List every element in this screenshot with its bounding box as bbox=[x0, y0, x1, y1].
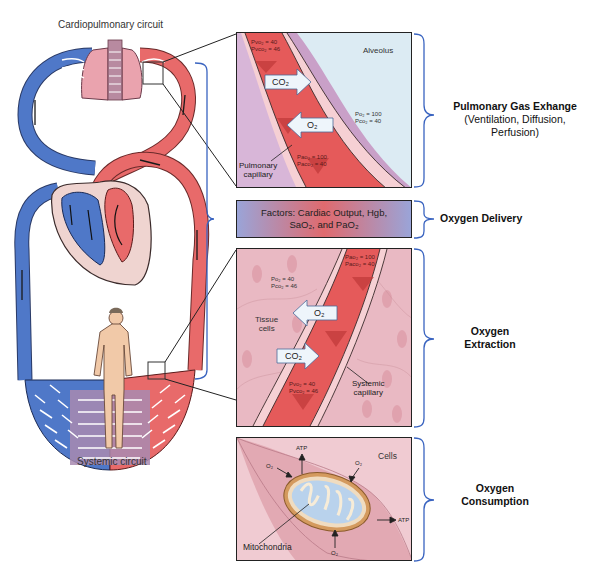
alveolus-values: Po₂ = 100 Pco₂ = 40 bbox=[355, 111, 382, 125]
pulmonary-gas-exchange-panel: Pvo₂ = 40 Pvco₂ = 46 Alveolus Po₂ = 100 … bbox=[236, 32, 412, 188]
stage-title: Pulmonary Gas Exhange bbox=[440, 100, 590, 113]
o2-arrow-label: O₂ bbox=[314, 308, 325, 318]
pulmonary-capillary-label-line1: Pulmonary bbox=[239, 161, 277, 170]
tissue-cells-label-line2: cells bbox=[255, 324, 278, 333]
systemic-capillary-label-line2: capillary bbox=[352, 388, 384, 397]
bracket-pulmonary bbox=[414, 34, 434, 187]
stage-title: Oxygen Delivery bbox=[440, 212, 550, 225]
paco2-value: Paco₂ = 40 bbox=[297, 161, 327, 168]
o2-arrow-label: O₂ bbox=[307, 120, 318, 130]
factors-box: Factors: Cardiac Output, Hgb, SaO₂, and … bbox=[236, 200, 412, 238]
pao2-value: Pao₂ = 100 bbox=[345, 254, 375, 261]
stage-oxygen-consumption: Oxygen Consumption bbox=[440, 482, 550, 508]
oxygen-consumption-panel: Cells ATP O₂ O₂ ATP O₂ Mitochondria bbox=[236, 437, 412, 561]
systemic-venous-values: Pvo₂ = 40 Pvco₂ = 46 bbox=[289, 381, 318, 395]
paco2-value: Paco₂ = 40 bbox=[345, 261, 375, 268]
bracket-extraction bbox=[414, 249, 434, 427]
tissue-po2: Po₂ = 40 bbox=[271, 276, 297, 283]
tissue-values: Po₂ = 40 Pco₂ = 46 bbox=[271, 276, 297, 290]
o2-left-label: O₂ bbox=[266, 463, 273, 470]
systemic-capillary-label: Systemic capillary bbox=[352, 379, 384, 397]
pvo2-value: Pvo₂ = 40 bbox=[289, 381, 318, 388]
pulmonary-venous-values: Pvo₂ = 40 Pvco₂ = 46 bbox=[251, 39, 280, 53]
stage-title-line2: Extraction bbox=[440, 338, 540, 351]
stage-oxygen-extraction: Oxygen Extraction bbox=[440, 325, 540, 351]
oxygen-extraction-panel: Pao₂ = 100 Paco₂ = 40 Po₂ = 40 Pco₂ = 46… bbox=[236, 248, 412, 427]
systemic-capillary-illustration bbox=[237, 249, 412, 427]
systemic-circuit-label: Systemic circuit bbox=[77, 456, 146, 467]
stage-subtitle-line1: (Ventilation, Diffusion, bbox=[440, 113, 590, 126]
stage-title-line1: Oxygen bbox=[440, 482, 550, 495]
stage-title-line1: Oxygen bbox=[440, 325, 540, 338]
factors-line1: Factors: Cardiac Output, Hgb, bbox=[237, 207, 411, 219]
bracket-consumption bbox=[414, 438, 434, 561]
atp-right-label: ATP bbox=[398, 517, 409, 524]
circulation-diagram bbox=[0, 0, 240, 575]
pulmonary-capillary-label: Pulmonary capillary bbox=[239, 161, 277, 179]
systemic-capillary-label-line1: Systemic bbox=[352, 379, 384, 388]
o2-bottom-label: O₂ bbox=[331, 550, 338, 557]
stage-oxygen-delivery: Oxygen Delivery bbox=[440, 212, 550, 225]
pao2-value: Pao₂ = 100 bbox=[297, 154, 327, 161]
cells-label: Cells bbox=[378, 451, 397, 461]
heart bbox=[52, 181, 152, 285]
co2-arrow-label: CO₂ bbox=[285, 351, 302, 361]
systemic-arterial-values: Pao₂ = 100 Paco₂ = 40 bbox=[345, 254, 375, 268]
stage-pulmonary-gas-exchange: Pulmonary Gas Exhange (Ventilation, Diff… bbox=[440, 100, 590, 139]
co2-arrow-label: CO₂ bbox=[272, 77, 289, 87]
tissue-cells-label-line1: Tissue bbox=[255, 315, 278, 324]
pvo2-value: Pvo₂ = 40 bbox=[251, 39, 280, 46]
pvco2-value: Pvco₂ = 46 bbox=[251, 46, 280, 53]
mitochondria-label: Mitochondria bbox=[243, 542, 292, 552]
atp-top-label: ATP bbox=[296, 445, 307, 452]
pulmonary-capillary-label-line2: capillary bbox=[239, 170, 277, 179]
factors-line2: SaO₂, and PaO₂ bbox=[237, 219, 411, 231]
stage-subtitle-line2: Perfusion) bbox=[440, 126, 590, 139]
alveolus-po2: Po₂ = 100 bbox=[355, 111, 382, 118]
alveolus-pco2: Pco₂ = 40 bbox=[355, 118, 382, 125]
stage-title-line2: Consumption bbox=[440, 495, 550, 508]
tissue-pco2: Pco₂ = 46 bbox=[271, 283, 297, 290]
tissue-cells-label: Tissue cells bbox=[255, 315, 278, 333]
pvco2-value: Pvco₂ = 46 bbox=[289, 388, 318, 395]
o2-right-label: O₂ bbox=[355, 460, 362, 467]
bracket-delivery bbox=[414, 201, 434, 238]
pulmonary-arterial-values: Pao₂ = 100 Paco₂ = 40 bbox=[297, 154, 327, 168]
alveolus-label: Alveolus bbox=[363, 46, 393, 55]
